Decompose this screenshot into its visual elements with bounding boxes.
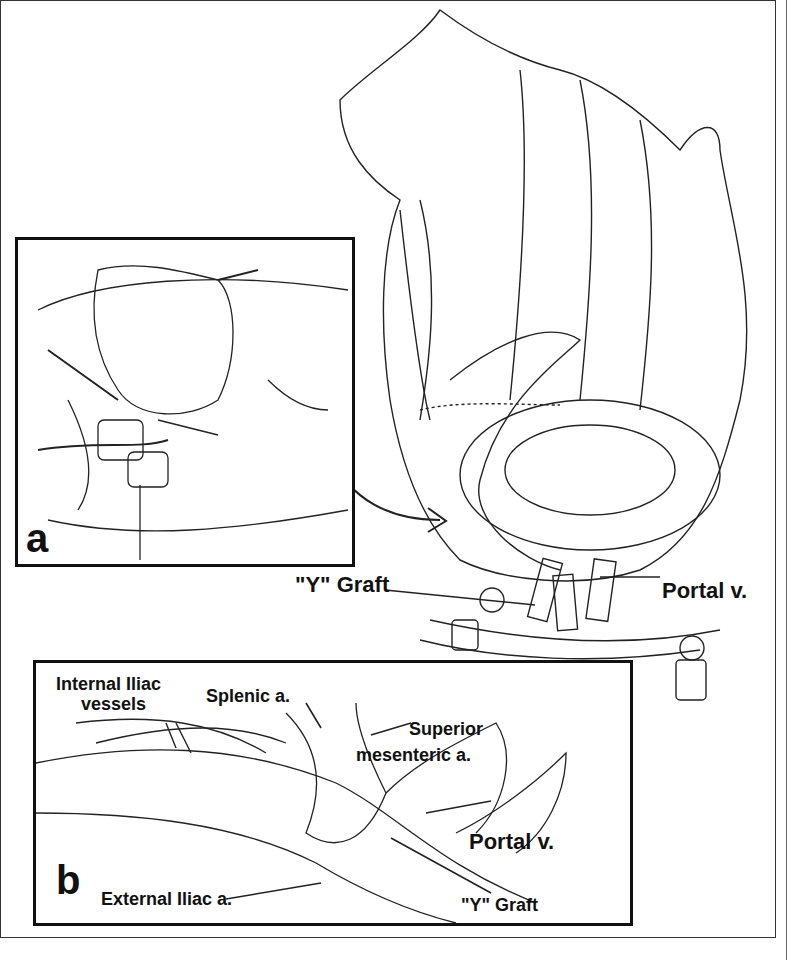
main-y-graft-label: "Y" Graft xyxy=(295,574,389,596)
sma-label-2: mesenteric a. xyxy=(356,746,471,764)
portal-label: Portal v. xyxy=(469,831,554,853)
panel-b-letter: b xyxy=(56,860,80,900)
internal-iliac-label-1: Internal Iliac xyxy=(56,675,161,693)
panel-a-letter: a xyxy=(26,518,48,558)
main-portal-label: Portal v. xyxy=(662,580,747,602)
panel-a: a xyxy=(15,237,355,567)
panel-a-illustration xyxy=(18,240,352,564)
external-iliac-label: External Iliac a. xyxy=(101,890,232,908)
y-graft-label: "Y" Graft xyxy=(461,896,538,914)
sma-label-1: Superior xyxy=(409,720,483,738)
internal-iliac-label-2: vessels xyxy=(81,695,146,713)
splenic-label: Splenic a. xyxy=(206,687,290,705)
panel-b: b Internal Iliac vessels Splenic a. Supe… xyxy=(33,660,633,926)
